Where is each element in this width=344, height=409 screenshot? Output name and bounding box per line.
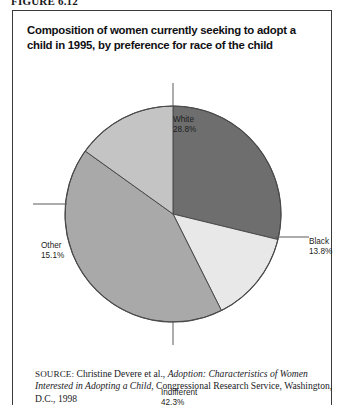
figure-number-label: FIGURE 6.12	[11, 0, 78, 7]
source-author: Christine Devere et al.,	[74, 368, 168, 379]
pie-label-black-pct: 13.8%	[309, 247, 332, 257]
chart-title: Composition of women currently seeking t…	[27, 23, 319, 52]
pie-label-black: Black 13.8%	[309, 237, 332, 258]
pie-chart: White 28.8% Black 13.8% Other 15.1% Indi…	[13, 57, 333, 349]
pie-label-other: Other 15.1%	[41, 241, 64, 262]
pie-label-white-pct: 28.8%	[173, 125, 196, 135]
pie-label-black-name: Black	[309, 237, 329, 246]
source-note: SOURCE: Christine Devere et al., Adoptio…	[35, 368, 335, 405]
source-label: SOURCE:	[35, 369, 74, 379]
figure-box: Composition of women currently seeking t…	[12, 10, 332, 405]
pie-label-other-name: Other	[41, 241, 61, 250]
pie-label-white: White 28.8%	[173, 115, 196, 136]
pie-label-other-pct: 15.1%	[41, 251, 64, 261]
pie-label-white-name: White	[173, 115, 194, 124]
pie-chart-svg	[13, 57, 333, 349]
